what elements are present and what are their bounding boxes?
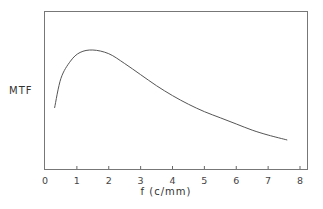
svg-text:1: 1: [74, 175, 80, 186]
svg-text:6: 6: [233, 175, 239, 186]
svg-text:8: 8: [297, 175, 303, 186]
svg-text:2: 2: [106, 175, 112, 186]
mtf-curve: [55, 50, 288, 140]
svg-text:3: 3: [138, 175, 144, 186]
plot-frame: [45, 12, 308, 170]
svg-text:5: 5: [201, 175, 207, 186]
svg-text:4: 4: [169, 175, 175, 186]
mtf-chart: 012345678 MTF f (c/mm): [0, 0, 323, 209]
x-axis-tick-labels: 012345678: [42, 175, 303, 186]
x-axis-label: f (c/mm): [141, 186, 192, 197]
svg-text:0: 0: [42, 175, 48, 186]
svg-text:7: 7: [265, 175, 271, 186]
y-axis-label: MTF: [9, 85, 33, 96]
x-axis-ticks: [77, 166, 300, 169]
